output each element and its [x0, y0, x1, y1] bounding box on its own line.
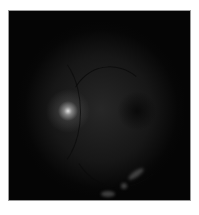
- bright-spot: [101, 191, 115, 197]
- bright-spot: [121, 183, 127, 189]
- fundus-image-frame: [8, 10, 191, 201]
- retinal-vessel-nasal: [9, 51, 81, 173]
